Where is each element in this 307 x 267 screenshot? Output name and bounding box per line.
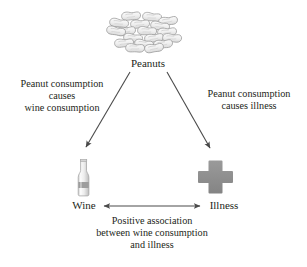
causal-diagram-figure: Peanuts Wine Illness Peanut consumption … (0, 0, 307, 267)
wine-bottle-icon (78, 159, 89, 196)
edge-label-line: between wine consumption (74, 227, 230, 239)
node-label-illness: Illness (200, 199, 248, 212)
node-label-peanuts-text: Peanuts (118, 57, 178, 70)
edge-label-line: causes (8, 90, 116, 102)
edge-label-line: Peanut consumption (195, 88, 303, 100)
node-label-wine-text: Wine (63, 199, 105, 212)
edge-label-line: wine consumption (8, 102, 116, 114)
node-label-peanuts: Peanuts (118, 57, 178, 70)
peanut-cluster-icon (106, 11, 182, 53)
edge-label-wine-illness-association: Positive association between wine consum… (74, 215, 230, 251)
edge-label-line: Peanut consumption (8, 78, 116, 90)
edge-label-line: causes illness (195, 100, 303, 112)
edge-label-line: Positive association (74, 215, 230, 227)
edge-label-peanuts-to-wine: Peanut consumption causes wine consumpti… (8, 78, 116, 114)
medical-cross-icon (198, 161, 233, 194)
edge-label-peanuts-to-illness: Peanut consumption causes illness (195, 88, 303, 112)
node-label-illness-text: Illness (200, 199, 248, 212)
node-label-wine: Wine (63, 199, 105, 212)
edge-label-line: and illness (74, 239, 230, 251)
